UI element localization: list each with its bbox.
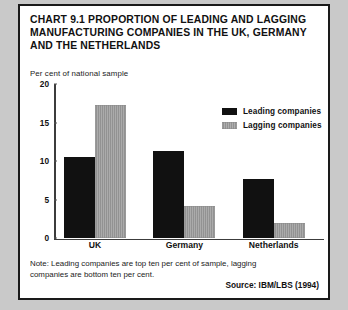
bar-leading [64, 157, 95, 238]
chart-note: Note: Leading companies are top ten per … [30, 259, 280, 280]
y-axis-title: Per cent of national sample [30, 69, 128, 78]
legend-label-lagging: Lagging companies [243, 121, 322, 130]
bar-group [153, 84, 215, 238]
y-axis-tick-label: 10 [40, 156, 49, 166]
bar-lagging [184, 206, 215, 238]
chart-legend: Leading companies Lagging companies [222, 107, 322, 135]
bar-lagging [274, 223, 305, 238]
chart-source: Source: IBM/LBS (1994) [225, 280, 319, 290]
y-axis-tick-label: 15 [40, 118, 49, 128]
page-title: CHART 9.1 PROPORTION OF LEADING AND LAGG… [30, 13, 322, 53]
bar-group [64, 84, 126, 238]
legend-item-leading: Leading companies [222, 107, 322, 116]
x-axis-category-label: UK [89, 240, 101, 250]
y-axis-tick-mark [54, 238, 57, 239]
bar-leading [153, 151, 184, 238]
y-axis-tick-label: 5 [44, 195, 49, 205]
legend-item-lagging: Lagging companies [222, 121, 322, 130]
y-axis-tick-label: 20 [40, 79, 49, 89]
y-axis-tick-mark [54, 122, 57, 123]
legend-swatch-leading-icon [222, 108, 237, 116]
chart-figure: CHART 9.1 PROPORTION OF LEADING AND LAGG… [18, 4, 330, 300]
legend-swatch-lagging-icon [222, 122, 237, 130]
x-axis-category-label: Germany [166, 240, 203, 250]
y-axis-tick-label: 0 [44, 233, 49, 243]
y-axis-tick-mark [54, 84, 57, 85]
y-axis-tick-mark [54, 199, 57, 200]
x-axis-category-label: Netherlands [249, 240, 299, 250]
legend-label-leading: Leading companies [243, 107, 321, 116]
bar-leading [243, 179, 274, 238]
y-axis-tick-mark [54, 161, 57, 162]
bar-lagging [95, 105, 126, 238]
